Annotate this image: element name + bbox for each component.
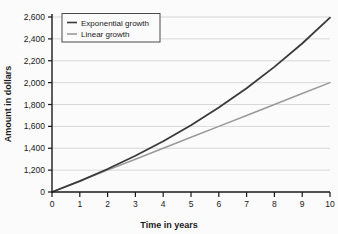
y-tick-label: 1,800 [24,100,46,110]
y-tick-label: 1,600 [24,121,46,131]
y-tick-label: 2,000 [24,78,46,88]
chart-figure: 01,2001,4001,6001,8002,0002,2002,4002,60… [0,0,338,234]
y-tick-label: 1,200 [24,165,46,175]
line-chart: 01,2001,4001,6001,8002,0002,2002,4002,60… [0,0,338,234]
legend-label-exponential: Exponential growth [81,19,149,28]
y-tick-label: 2,200 [24,56,46,66]
y-tick-label: 2,600 [24,12,46,22]
x-tick-label: 3 [133,199,138,209]
x-tick-label: 2 [105,199,110,209]
y-tick-label: 0 [40,187,45,197]
y-axis-title: Amount in dollars [3,66,13,143]
x-tick-label: 6 [216,199,221,209]
x-tick-label: 7 [244,199,249,209]
x-tick-label: 4 [161,199,166,209]
x-tick-label: 8 [272,199,277,209]
x-tick-label: 9 [300,199,305,209]
legend-label-linear: Linear growth [81,30,129,39]
x-tick-label: 1 [77,199,82,209]
x-axis-title: Time in years [140,220,197,230]
x-tick-label: 10 [325,199,335,209]
y-tick-label: 1,400 [24,143,46,153]
x-tick-label: 0 [50,199,55,209]
legend: Exponential growth Linear growth [62,14,160,43]
x-tick-label: 5 [189,199,194,209]
y-tick-label: 2,400 [24,34,46,44]
